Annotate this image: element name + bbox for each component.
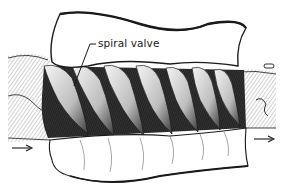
outflow-arrow-icon xyxy=(254,136,274,142)
spiral-valve-label: spiral valve xyxy=(98,37,160,49)
inflow-arrow-icon xyxy=(12,145,32,151)
spiral-valve-illustration xyxy=(0,0,284,196)
